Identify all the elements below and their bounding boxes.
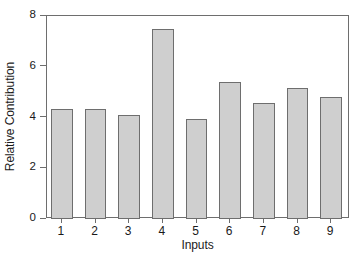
y-tick-label: 0 — [22, 212, 36, 224]
x-tick-mark — [330, 218, 331, 223]
x-tick-mark — [229, 218, 230, 223]
y-tick-label: 6 — [22, 60, 36, 72]
x-axis-title: Inputs — [46, 238, 349, 252]
bar — [118, 115, 140, 219]
bar — [51, 109, 73, 219]
y-tick-label: 2 — [22, 161, 36, 173]
bar — [152, 29, 174, 219]
x-tick-mark — [162, 218, 163, 223]
x-tick-mark — [263, 218, 264, 223]
y-axis-title: Relative Contribution — [2, 15, 18, 218]
bar — [253, 103, 275, 219]
bar — [219, 82, 241, 219]
bar — [186, 119, 208, 219]
x-tick-label: 1 — [49, 224, 73, 238]
x-tick-label: 6 — [217, 224, 241, 238]
x-tick-mark — [95, 218, 96, 223]
x-tick-mark — [297, 218, 298, 223]
x-tick-label: 7 — [251, 224, 275, 238]
y-tick-label: 4 — [22, 111, 36, 123]
y-axis-ticks: 02468 — [19, 0, 36, 259]
y-tick-mark — [40, 15, 46, 16]
x-tick-label: 9 — [318, 224, 342, 238]
y-tick-mark — [40, 116, 46, 117]
bar — [320, 97, 342, 219]
x-tick-label: 2 — [83, 224, 107, 238]
y-tick-mark — [40, 218, 46, 219]
x-tick-mark — [61, 218, 62, 223]
x-tick-label: 4 — [150, 224, 174, 238]
plot-area — [46, 15, 349, 218]
y-tick-mark — [40, 167, 46, 168]
x-tick-mark — [196, 218, 197, 223]
y-tick-label: 8 — [22, 9, 36, 21]
x-tick-label: 3 — [116, 224, 140, 238]
x-tick-label: 5 — [184, 224, 208, 238]
bar — [287, 88, 309, 219]
y-tick-mark — [40, 65, 46, 66]
bar-chart-figure: Relative Contribution 02468 123456789 In… — [0, 0, 359, 259]
x-tick-label: 8 — [285, 224, 309, 238]
bar — [85, 109, 107, 219]
x-tick-mark — [128, 218, 129, 223]
